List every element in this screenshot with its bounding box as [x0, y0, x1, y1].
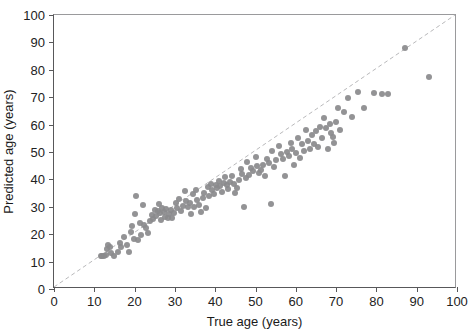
data-point — [236, 177, 242, 183]
x-tick-50 — [256, 287, 257, 292]
data-point — [203, 205, 209, 211]
x-tick-label-60: 60 — [289, 294, 303, 309]
y-tick-100 — [49, 15, 54, 16]
data-point — [327, 121, 333, 127]
data-point — [138, 232, 144, 238]
y-tick-label-10: 10 — [31, 254, 45, 269]
data-point — [426, 74, 432, 80]
y-tick-70 — [49, 97, 54, 98]
data-point — [288, 140, 294, 146]
data-point — [140, 202, 146, 208]
data-point — [355, 89, 361, 95]
y-tick-label-30: 30 — [31, 199, 45, 214]
data-point — [196, 202, 202, 208]
y-tick-20 — [49, 234, 54, 235]
data-points-layer — [54, 15, 455, 287]
data-point — [301, 148, 307, 154]
y-tick-50 — [49, 152, 54, 153]
x-tick-40 — [215, 287, 216, 292]
data-point — [193, 187, 199, 193]
data-point — [182, 188, 188, 194]
data-point — [244, 159, 250, 165]
data-point — [349, 114, 355, 120]
data-point — [234, 185, 240, 191]
data-point — [335, 105, 341, 111]
data-point — [276, 143, 282, 149]
data-point — [319, 135, 325, 141]
y-axis-title-text: Predicted age (years) — [1, 89, 16, 213]
data-point — [280, 156, 286, 162]
y-tick-30 — [49, 207, 54, 208]
y-tick-90 — [49, 42, 54, 43]
data-point — [303, 127, 309, 133]
data-point — [295, 135, 301, 141]
data-point — [297, 155, 303, 161]
data-point — [133, 193, 139, 199]
data-point — [132, 211, 138, 217]
data-point — [291, 162, 297, 168]
data-point — [307, 146, 313, 152]
y-tick-80 — [49, 70, 54, 71]
x-tick-label-90: 90 — [409, 294, 423, 309]
x-tick-100 — [457, 287, 458, 292]
data-point — [241, 204, 247, 210]
x-axis-title-text: True age (years) — [207, 314, 303, 329]
y-tick-60 — [49, 125, 54, 126]
data-point — [371, 90, 377, 96]
x-tick-0 — [54, 287, 55, 292]
data-point — [232, 190, 238, 196]
y-tick-10 — [49, 262, 54, 263]
data-point — [337, 127, 343, 133]
data-point — [402, 45, 408, 51]
data-point — [262, 173, 268, 179]
y-tick-label-70: 70 — [31, 90, 45, 105]
data-point — [115, 249, 121, 255]
y-tick-label-0: 0 — [38, 282, 45, 297]
data-point — [305, 138, 311, 144]
data-point — [129, 223, 135, 229]
data-point — [107, 244, 113, 250]
y-tick-label-20: 20 — [31, 227, 45, 242]
data-point — [271, 164, 277, 170]
data-point — [321, 115, 327, 121]
data-point — [121, 234, 127, 240]
data-point — [225, 186, 231, 192]
x-tick-label-100: 100 — [446, 294, 468, 309]
data-point — [219, 189, 225, 195]
y-tick-40 — [49, 179, 54, 180]
x-tick-label-20: 20 — [127, 294, 141, 309]
data-point — [268, 201, 274, 207]
data-point — [211, 191, 217, 197]
data-point — [126, 249, 132, 255]
x-tick-label-0: 0 — [50, 294, 57, 309]
y-tick-label-100: 100 — [23, 8, 45, 23]
data-point — [145, 230, 151, 236]
data-point — [176, 196, 182, 202]
y-tick-label-80: 80 — [31, 62, 45, 77]
y-tick-label-60: 60 — [31, 117, 45, 132]
data-point — [385, 91, 391, 97]
data-point — [171, 210, 177, 216]
plot-area: 0102030405060708090100 01020304050607080… — [53, 14, 456, 288]
x-tick-10 — [94, 287, 95, 292]
x-tick-70 — [336, 287, 337, 292]
x-tick-80 — [376, 287, 377, 292]
x-axis-title: True age (years) — [53, 314, 456, 329]
x-tick-60 — [296, 287, 297, 292]
x-tick-label-10: 10 — [87, 294, 101, 309]
x-tick-label-40: 40 — [208, 294, 222, 309]
data-point — [341, 109, 347, 115]
y-tick-label-90: 90 — [31, 35, 45, 50]
data-point — [331, 140, 337, 146]
y-tick-label-50: 50 — [31, 145, 45, 160]
x-tick-label-70: 70 — [329, 294, 343, 309]
data-point — [315, 144, 321, 150]
data-point — [299, 141, 305, 147]
x-tick-label-50: 50 — [248, 294, 262, 309]
data-point — [229, 173, 235, 179]
data-point — [282, 173, 288, 179]
data-point — [200, 195, 206, 201]
x-tick-20 — [135, 287, 136, 292]
scatter-plot-figure: 0102030405060708090100 01020304050607080… — [0, 0, 475, 336]
data-point — [273, 157, 279, 163]
